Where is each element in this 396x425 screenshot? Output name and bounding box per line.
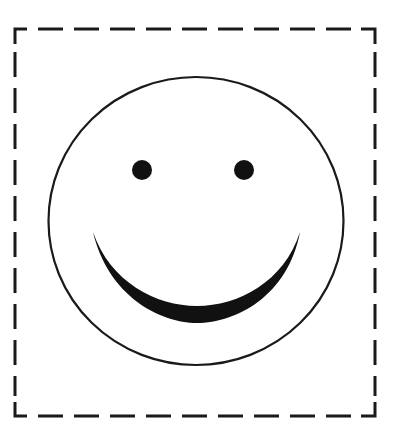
smiley-figure [0,0,396,425]
left-eye [132,160,152,180]
right-eye [234,160,254,180]
